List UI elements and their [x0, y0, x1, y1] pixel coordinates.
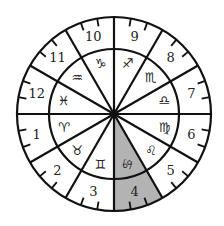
tick-mark — [18, 97, 26, 98]
gemini-icon: ♊ — [95, 157, 107, 172]
tick-mark — [23, 144, 31, 147]
tick-mark — [40, 52, 46, 57]
house-number-6: 6 — [187, 127, 195, 142]
tick-mark — [171, 40, 176, 46]
house-number-12: 12 — [28, 86, 45, 101]
capricorn-icon: ♑ — [95, 56, 107, 71]
tick-mark — [23, 81, 31, 84]
leo-icon: ♌ — [145, 143, 157, 158]
house-number-8: 8 — [166, 50, 174, 65]
tick-mark — [97, 18, 98, 26]
tick-mark — [202, 129, 210, 130]
house-number-10: 10 — [85, 29, 102, 44]
center-hub — [112, 112, 117, 117]
tick-mark — [52, 40, 57, 46]
house-number-5: 5 — [166, 163, 174, 178]
tick-mark — [182, 171, 188, 176]
tick-mark — [129, 18, 130, 26]
zodiac-wheel: 123456789101112 ♈♉♊♋♌♍♎♏♐♑♒♓ — [0, 0, 224, 226]
tick-mark — [198, 81, 206, 84]
house-number-1: 1 — [33, 127, 41, 142]
taurus-icon: ♉ — [71, 143, 83, 158]
tick-mark — [40, 171, 46, 176]
tick-mark — [171, 182, 176, 188]
tick-mark — [198, 144, 206, 147]
libra-icon: ♎ — [158, 93, 170, 108]
house-number-9: 9 — [131, 29, 139, 44]
tick-mark — [144, 23, 147, 31]
house-number-3: 3 — [89, 184, 97, 199]
tick-mark — [18, 129, 26, 130]
tick-mark — [52, 182, 57, 188]
tick-mark — [81, 198, 84, 206]
sagittarius-icon: ♐ — [122, 56, 134, 71]
pisces-icon: ♓ — [58, 93, 70, 108]
tick-mark — [182, 52, 188, 57]
scorpio-icon: ♏ — [145, 70, 157, 85]
house-number-2: 2 — [53, 163, 61, 178]
house-number-11: 11 — [49, 50, 66, 65]
tick-mark — [202, 97, 210, 98]
virgo-icon: ♍ — [158, 120, 170, 135]
house-number-7: 7 — [187, 86, 195, 101]
house-number-4: 4 — [131, 184, 139, 199]
aries-icon: ♈ — [58, 120, 70, 135]
tick-mark — [81, 23, 84, 31]
tick-mark — [97, 202, 98, 210]
aquarius-icon: ♒ — [71, 70, 83, 85]
